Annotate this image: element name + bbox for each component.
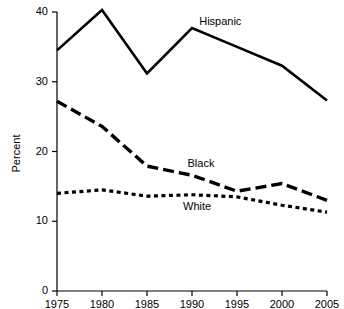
percent-by-race-line-chart: Percent 01020304019751980198519901995200… — [0, 0, 344, 309]
x-tick-label: 1995 — [215, 299, 259, 309]
x-tick-label: 1975 — [35, 299, 79, 309]
y-tick-label: 40 — [10, 6, 48, 17]
axes-group — [57, 12, 327, 291]
x-axis-ticks — [57, 291, 327, 296]
x-tick-label: 1990 — [170, 299, 214, 309]
series-label-white: White — [183, 201, 211, 212]
x-tick-label: 2005 — [305, 299, 344, 309]
series-lines — [57, 10, 327, 212]
x-tick-label: 2000 — [260, 299, 304, 309]
series-label-hispanic: Hispanic — [199, 16, 241, 27]
series-label-black: Black — [188, 158, 215, 169]
y-axis-ticks — [52, 12, 57, 291]
x-tick-label: 1980 — [80, 299, 124, 309]
y-tick-label: 30 — [10, 76, 48, 87]
y-tick-label: 20 — [10, 146, 48, 157]
series-line-hispanic — [57, 10, 327, 101]
x-tick-label: 1985 — [125, 299, 169, 309]
series-line-black — [57, 101, 327, 200]
y-tick-label: 10 — [10, 215, 48, 226]
y-tick-label: 0 — [10, 285, 48, 296]
chart-canvas — [0, 0, 344, 309]
